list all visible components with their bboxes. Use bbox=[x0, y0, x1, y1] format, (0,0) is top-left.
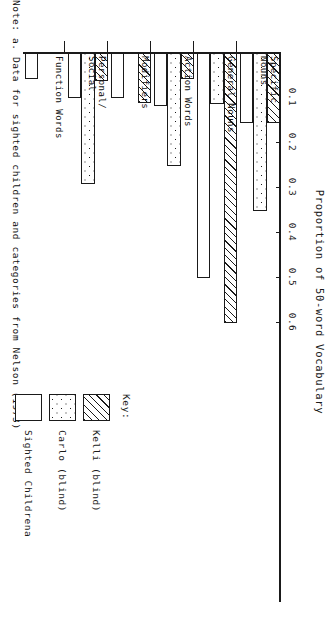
legend-label: Kelli (blind) bbox=[91, 430, 102, 512]
axis-tick-label: 0.3 bbox=[287, 178, 298, 197]
category-separator-tick bbox=[193, 41, 194, 53]
axis-tick bbox=[276, 142, 281, 143]
axis-tick-label: 0.2 bbox=[287, 133, 298, 152]
legend-label: Sighted Childrena bbox=[23, 430, 34, 537]
category-axis-label: General Nouns bbox=[226, 56, 236, 133]
bar bbox=[25, 53, 38, 79]
bar bbox=[240, 53, 253, 123]
legend-title: Key: bbox=[121, 394, 132, 419]
axis-tick-label: 0.1 bbox=[287, 88, 298, 107]
legend-swatch bbox=[83, 394, 110, 421]
axis-tick-label: 0.5 bbox=[287, 268, 298, 287]
bar bbox=[167, 53, 180, 166]
bar bbox=[111, 53, 124, 98]
category-axis-label: Personal/ Social bbox=[87, 56, 106, 109]
category-separator-tick bbox=[64, 41, 65, 53]
legend-swatch bbox=[15, 394, 42, 421]
axis-tick bbox=[276, 322, 281, 323]
figure: Note: a. Data for sighted children and c… bbox=[0, 0, 328, 629]
bar bbox=[68, 53, 81, 98]
axis-tick bbox=[276, 232, 281, 233]
category-axis-label: Function Words bbox=[54, 56, 64, 139]
category-separator-tick bbox=[236, 41, 237, 53]
category-axis-label: Modifiers bbox=[140, 56, 150, 109]
axis-tick bbox=[276, 277, 281, 278]
legend: Key: Kelli (blind)Carlo (blind)Sighted C… bbox=[12, 394, 132, 624]
bar bbox=[210, 53, 223, 104]
axis-tick bbox=[276, 187, 281, 188]
value-axis-line bbox=[279, 52, 281, 602]
chart-title: Proportion of 50-word Vocabulary bbox=[314, 52, 326, 552]
legend-label: Carlo (blind) bbox=[57, 430, 68, 512]
category-axis-label: Specific Nouns bbox=[259, 56, 278, 103]
bar bbox=[154, 53, 167, 106]
axis-tick-label: 0.6 bbox=[287, 313, 298, 332]
category-separator-tick bbox=[150, 41, 151, 53]
category-separator-tick bbox=[107, 41, 108, 53]
bar bbox=[197, 53, 210, 278]
rotated-figure-wrapper: Note: a. Data for sighted children and c… bbox=[0, 0, 328, 629]
category-axis-label: Action Words bbox=[183, 56, 193, 127]
axis-tick-label: 0.4 bbox=[287, 223, 298, 242]
legend-swatch bbox=[49, 394, 76, 421]
